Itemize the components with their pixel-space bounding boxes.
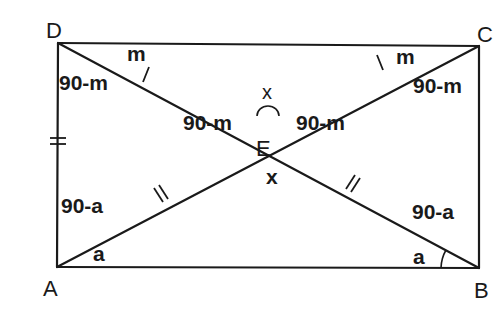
vertex-label-D: D (46, 18, 62, 43)
tick-EC (377, 55, 383, 70)
geometry-diagram: D C A B E m 90-m m 90-m 90-m 90-m x x 90… (0, 0, 504, 314)
angle-label-A-bottom: a (93, 242, 105, 265)
angle-arc-B (441, 250, 446, 268)
angle-label-C-side: 90-m (413, 74, 462, 97)
angle-label-A-side: 90-a (61, 194, 103, 217)
angle-label-D-side: 90-m (59, 71, 108, 94)
angle-label-B-side: 90-a (412, 200, 454, 223)
angle-label-E-top: x (262, 81, 272, 103)
angle-label-D-top: m (127, 42, 146, 65)
side-DC (58, 43, 479, 46)
tick-DE (143, 67, 149, 82)
angle-label-B-bottom: a (413, 245, 425, 268)
angle-label-E-right: 90-m (296, 111, 345, 134)
angle-label-E-bottom: x (266, 165, 278, 188)
angle-label-E-left: 90-m (183, 111, 232, 134)
angle-arc-E (257, 106, 279, 116)
double-tick-AE (154, 185, 168, 202)
angle-label-C-top: m (396, 45, 415, 68)
vertex-label-C: C (477, 22, 493, 47)
double-tick-EB (346, 175, 360, 192)
side-AD (57, 43, 58, 267)
vertex-label-A: A (43, 276, 58, 301)
vertex-label-E: E (256, 136, 271, 161)
vertex-label-B: B (474, 278, 489, 303)
